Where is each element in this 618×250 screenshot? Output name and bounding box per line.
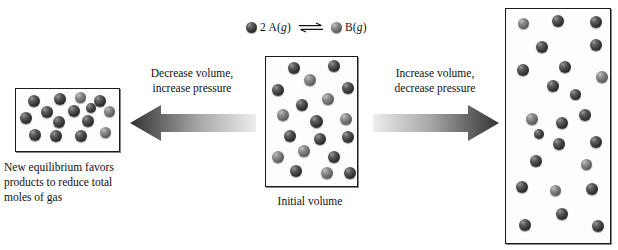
gas-particle xyxy=(314,133,326,145)
reaction-legend: 2 A(g) B(g) xyxy=(246,21,367,33)
decrease-volume-arrow xyxy=(128,104,256,142)
reactant-sphere-icon xyxy=(246,22,257,33)
gas-particle xyxy=(100,127,111,138)
gas-particle xyxy=(530,155,542,167)
gas-particle xyxy=(310,115,323,128)
gas-particle xyxy=(328,60,340,72)
center-caption-line1: Initial volume xyxy=(250,194,370,209)
center-container-box xyxy=(265,56,358,187)
gas-particle xyxy=(556,208,568,220)
right-container-box xyxy=(505,8,611,244)
gas-particle xyxy=(586,183,598,195)
left-caption-line2: products to reduce total xyxy=(4,175,154,190)
gas-particle xyxy=(288,62,300,74)
gas-particle xyxy=(519,219,531,231)
gas-particle xyxy=(536,41,548,53)
gas-particle xyxy=(516,181,528,193)
gas-particle xyxy=(342,82,354,94)
gas-particle xyxy=(596,71,608,83)
gas-particle xyxy=(50,130,62,142)
gas-particle xyxy=(20,112,32,124)
left-container-caption: New equilibrium favors products to reduc… xyxy=(4,160,154,206)
left-caption-line3: moles of gas xyxy=(4,190,154,205)
gas-particle xyxy=(344,167,356,179)
gas-particle xyxy=(41,106,53,118)
gas-particle xyxy=(94,95,106,107)
gas-particle xyxy=(590,16,602,28)
gas-particle xyxy=(322,93,334,105)
gas-particle xyxy=(272,84,284,96)
gas-particle xyxy=(556,117,568,129)
gas-particle xyxy=(579,109,591,121)
gas-particle xyxy=(321,167,333,179)
left-caption-line1: New equilibrium favors xyxy=(4,160,154,175)
gas-particle xyxy=(518,18,529,29)
gas-particle xyxy=(68,105,80,117)
gas-particle xyxy=(304,74,316,86)
center-container-caption: Initial volume xyxy=(250,194,370,209)
right-arrow-label-line1: Increase volume, xyxy=(375,66,495,81)
reactant-label: 2 A(g) xyxy=(260,21,291,33)
gas-particle xyxy=(517,64,529,76)
gas-particle xyxy=(559,61,571,73)
gas-particle xyxy=(75,92,86,103)
gas-particle xyxy=(284,130,296,142)
left-box-particles xyxy=(16,89,119,151)
left-container-box xyxy=(15,88,120,152)
product-label: B(g) xyxy=(345,21,367,33)
gas-particle xyxy=(570,89,581,100)
gas-particle xyxy=(75,130,87,142)
gas-particle xyxy=(29,129,41,141)
gas-particle xyxy=(296,99,308,111)
gas-particle xyxy=(592,220,604,232)
gas-particle xyxy=(53,116,65,128)
gas-particle xyxy=(54,93,66,105)
gas-particle xyxy=(590,39,602,51)
gas-particle xyxy=(552,15,564,27)
gas-particle xyxy=(104,106,115,117)
equilibrium-arrow-icon xyxy=(298,22,324,33)
gas-particle xyxy=(298,145,310,157)
gas-particle xyxy=(547,80,559,92)
left-arrow-label-line1: Decrease volume, xyxy=(133,66,251,81)
gas-particle xyxy=(581,159,592,170)
gas-particle xyxy=(550,185,561,196)
product-sphere-icon xyxy=(331,22,342,33)
gas-particle xyxy=(277,109,289,121)
left-arrow-label: Decrease volume, increase pressure xyxy=(133,66,251,97)
gas-particle xyxy=(328,151,340,163)
gas-particle xyxy=(272,151,284,163)
right-arrow-label-line2: decrease pressure xyxy=(375,81,495,96)
left-arrow-label-line2: increase pressure xyxy=(133,81,251,96)
increase-volume-arrow xyxy=(373,104,501,142)
gas-particle xyxy=(86,103,96,113)
gas-particle xyxy=(290,165,302,177)
gas-particle xyxy=(340,113,352,125)
gas-particle xyxy=(526,113,538,125)
gas-particle xyxy=(590,136,602,148)
right-arrow-label: Increase volume, decrease pressure xyxy=(375,66,495,97)
gas-particle xyxy=(342,131,354,143)
gas-particle xyxy=(553,138,565,150)
right-box-particles xyxy=(506,9,610,243)
gas-particle xyxy=(28,95,40,107)
diagram-canvas: 2 A(g) B(g) New equilibrium favors produ… xyxy=(0,0,618,250)
center-box-particles xyxy=(266,57,357,186)
gas-particle xyxy=(534,129,544,139)
gas-particle xyxy=(82,115,94,127)
